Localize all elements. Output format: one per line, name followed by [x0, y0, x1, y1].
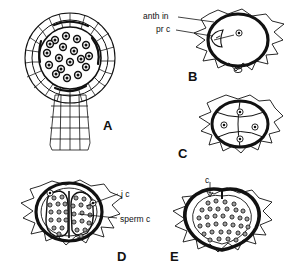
panel-letter-a: A	[103, 119, 113, 132]
leader-anth-in	[178, 17, 214, 22]
leader-pr-c	[176, 30, 212, 36]
plate-drawing	[0, 0, 290, 280]
panel-letter-c: C	[178, 147, 188, 160]
panel-letter-d: D	[117, 250, 127, 263]
panel-a-drawing	[25, 13, 115, 150]
panel-letter-e: E	[170, 250, 179, 263]
label-sperm-c: sperm c	[120, 215, 150, 224]
leader-sperm-c	[78, 214, 117, 218]
panel-letter-b: B	[188, 70, 198, 83]
panel-d-drawing	[21, 180, 122, 245]
label-j-c: j c	[121, 190, 130, 199]
panel-b-drawing	[176, 9, 284, 73]
panel-e-drawing	[173, 182, 272, 252]
figure-plate: A B C D E anth in pr c j c sperm c c	[0, 0, 290, 280]
label-anth-in: anth in	[143, 12, 169, 21]
label-pr-c: pr c	[156, 25, 170, 34]
panel-c-drawing	[199, 95, 283, 153]
label-c-e: c	[205, 176, 209, 185]
panel-a-androcytes	[44, 33, 93, 82]
